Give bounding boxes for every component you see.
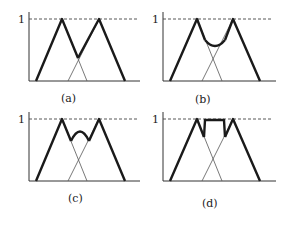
triangle-1-outline — [36, 19, 78, 81]
panel-label-a: (a) — [61, 92, 76, 105]
y-tick-1: 1 — [18, 13, 25, 26]
panel-label-b: (b) — [195, 93, 211, 106]
convex-connector — [71, 132, 89, 142]
panel-c: 1 (c) — [18, 112, 140, 205]
y-tick-1: 1 — [152, 113, 159, 126]
panel-d: 1 (d) — [152, 112, 276, 210]
panel-label-c: (c) — [68, 192, 83, 205]
triangle-1-outline — [36, 119, 71, 181]
panel-b: 1 (b) — [152, 12, 276, 106]
y-tick-1: 1 — [18, 113, 25, 126]
triangle-2-outline — [225, 19, 260, 81]
flat-plateau-connector — [204, 120, 225, 137]
triangle-1-outline — [170, 119, 204, 181]
triangle-2-outline — [225, 119, 260, 181]
triangle-1-outline — [170, 19, 205, 81]
y-tick-1: 1 — [152, 13, 159, 26]
panel-a: 1 (a) — [18, 12, 140, 105]
panel-label-d: (d) — [202, 197, 218, 210]
triangle-2-outline — [78, 19, 125, 81]
fuzzy-membership-figure: 1 (a) 1 (b) 1 (c) 1 — [0, 0, 288, 225]
triangle-2-outline — [89, 119, 125, 181]
